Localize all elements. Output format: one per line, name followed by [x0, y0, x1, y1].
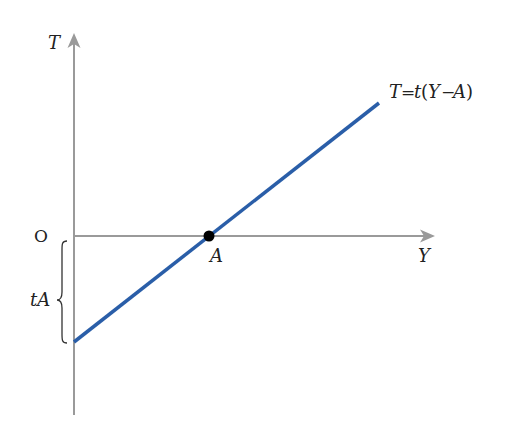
intercept-label: tA — [30, 289, 50, 310]
function-line — [74, 103, 379, 342]
equation-close-paren: ) — [466, 81, 473, 102]
y-axis — [74, 230, 435, 243]
point-a-marker — [204, 231, 215, 242]
y-axis-label: Y — [418, 245, 432, 266]
equation-a: A — [451, 81, 466, 102]
equation-open-paren: ( — [421, 81, 428, 102]
equation-y: Y — [428, 81, 442, 102]
t-axis-label: T — [48, 32, 62, 53]
point-a-label: A — [208, 245, 223, 266]
intercept-brace-icon — [57, 241, 67, 343]
origin-label: O — [34, 226, 48, 246]
equation-label: T = t ( Y − A ) — [389, 81, 473, 102]
t-axis — [68, 33, 81, 415]
diagram-canvas: T Y O A tA T = t ( Y − A ) — [0, 0, 519, 434]
